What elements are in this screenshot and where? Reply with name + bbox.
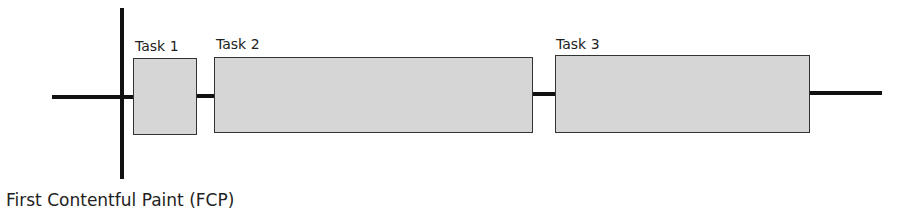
task-3-label: Task 3: [556, 37, 600, 51]
timeline-segment-2-3: [531, 92, 556, 96]
task-1-box: [133, 58, 197, 135]
task-1-label: Task 1: [135, 39, 179, 53]
timeline-segment-1-2: [195, 94, 215, 98]
task-2-label: Task 2: [216, 37, 260, 51]
fcp-marker-line: [120, 8, 124, 179]
timeline-segment-end: [808, 91, 882, 95]
task-2-box: [214, 57, 533, 133]
fcp-label: First Contentful Paint (FCP): [6, 192, 234, 209]
task-3-box: [555, 55, 810, 133]
